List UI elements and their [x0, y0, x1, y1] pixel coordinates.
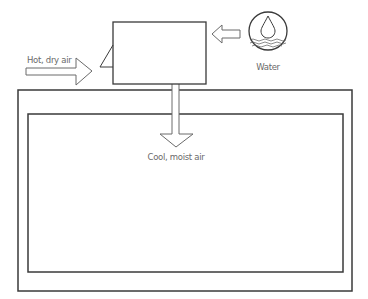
water-arrow-icon	[212, 25, 240, 43]
water-icon	[249, 12, 287, 50]
cool-air-arrow-icon	[160, 84, 193, 147]
water-label: Water	[256, 62, 280, 72]
cool-air-label: Cool, moist air	[148, 152, 206, 162]
cooler-unit	[113, 22, 206, 84]
room-outer-wall	[18, 90, 352, 291]
hot-air-label: Hot, dry air	[27, 55, 72, 65]
evaporative-cooler-diagram: Hot, dry air Water Cool, moist air	[0, 0, 368, 299]
intake-vent-icon	[100, 45, 113, 67]
